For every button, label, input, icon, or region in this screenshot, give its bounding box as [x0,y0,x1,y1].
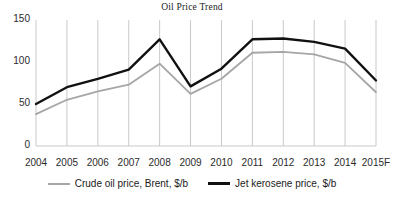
chart-legend: Crude oil price, Brent, $/b Jet kerosene… [0,178,384,189]
y-tick-label-50: 50 [0,97,30,108]
legend-item-crude-oil[interactable]: Crude oil price, Brent, $/b [48,178,188,189]
legend-label-crude-oil: Crude oil price, Brent, $/b [75,178,188,189]
x-tick-label-2011: 2011 [235,157,269,168]
legend-item-jet-kerosene[interactable]: Jet kerosene price, $/b [208,178,336,189]
x-tick-label-2015F: 2015F [359,157,393,168]
y-tick-label-150: 150 [0,13,30,24]
legend-line-swatch-crude-icon [48,183,70,185]
y-tick-label-0: 0 [0,139,30,150]
x-tick-label-2006: 2006 [81,157,115,168]
x-tick-label-2009: 2009 [174,157,208,168]
series-lines-group [36,38,376,114]
legend-label-jet-kerosene: Jet kerosene price, $/b [235,178,336,189]
x-tick-label-2008: 2008 [143,157,177,168]
gridlines-group [36,20,376,146]
y-tick-label-100: 100 [0,55,30,66]
x-tick-label-2012: 2012 [266,157,300,168]
x-tick-label-2005: 2005 [50,157,84,168]
x-tick-label-2007: 2007 [112,157,146,168]
x-tick-label-2004: 2004 [19,157,53,168]
legend-line-swatch-jet-icon [208,182,230,185]
series-line-crude-oil [36,52,376,114]
x-tick-label-2010: 2010 [204,157,238,168]
x-tick-label-2013: 2013 [297,157,331,168]
x-tick-label-2014: 2014 [328,157,362,168]
